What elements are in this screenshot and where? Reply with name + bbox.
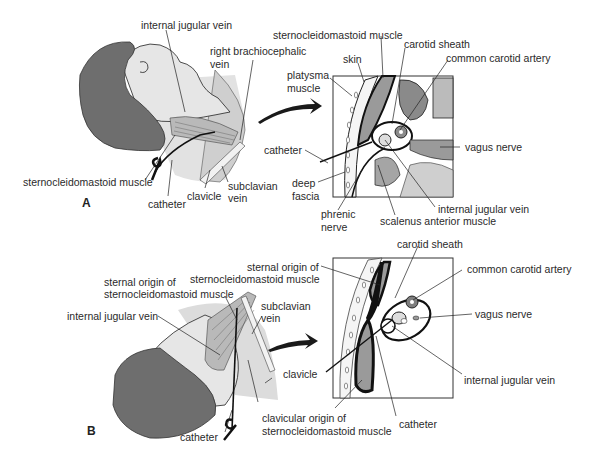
label-a-cs-platysma: platysma [287, 69, 329, 81]
label-a-cs-phrenic-nerve: phrenic [321, 208, 355, 220]
label-b-clavicular-origin: clavicular origin of [262, 412, 346, 424]
panel-letter-a: A [82, 196, 91, 210]
label-a-sternocleidomastoid-muscle: sternocleidomastoid muscle [23, 176, 153, 188]
label-b-cs-catheter: catheter [399, 418, 437, 430]
arrow-a-icon [258, 98, 322, 124]
label-b-cs-vagus-nerve: vagus nerve [475, 308, 532, 320]
label-a-cs-phrenic-nerve-line2: nerve [321, 221, 347, 233]
label-a-cs-vagus-nerve: vagus nerve [465, 141, 522, 153]
label-a-internal-jugular-vein: internal jugular vein [141, 19, 232, 31]
label-a-cs-skin: skin [343, 53, 362, 65]
label-b-cs-internal-jugular-vein: internal jugular vein [464, 374, 555, 386]
label-b-sternal-origin: sternal origin of [104, 276, 176, 288]
label-a-cs-scalenus-anterior: scalenus anterior muscle [380, 215, 496, 227]
label-a-subclavian-vein: subclavian [228, 180, 278, 192]
label-a-catheter: catheter [148, 198, 186, 210]
label-b-clavicular-origin-line2: sternocleidomastoid muscle [262, 425, 392, 437]
label-b-cs-sternal-origin-line2: sternocleidomastoid muscle [190, 273, 320, 285]
label-b-internal-jugular-vein: internal jugular vein [67, 310, 158, 322]
label-b-cs-carotid-sheath: carotid sheath [397, 238, 463, 250]
arrow-b-icon [268, 333, 318, 352]
label-a-cs-common-carotid-artery: common carotid artery [446, 52, 550, 64]
label-a-right-brachiocephalic-vein: right brachiocephalic [210, 45, 306, 57]
label-b-subclavian-vein: subclavian [261, 300, 311, 312]
label-b-catheter: catheter [180, 431, 218, 443]
label-a-cs-catheter: catheter [264, 144, 302, 156]
label-a-cs-deep-fascia-line2: fascia [292, 190, 319, 202]
panel-a-cross-section [320, 76, 453, 197]
label-b-cs-sternal-origin: sternal origin of [247, 261, 319, 273]
label-a-right-brachiocephalic-vein-line2: vein [210, 58, 229, 70]
label-a-cs-sternocleidomastoid: sternocleidomastoid muscle [273, 29, 403, 41]
label-a-subclavian-vein-line2: vein [228, 192, 247, 204]
label-b-subclavian-vein-line2: vein [261, 312, 280, 324]
panel-letter-b: B [87, 424, 96, 438]
label-a-cs-internal-jugular-vein: internal jugular vein [438, 203, 529, 215]
label-b-clavicle: clavicle [283, 368, 317, 380]
label-a-clavicle: clavicle [187, 190, 221, 202]
label-a-cs-platysma-line2: muscle [287, 82, 320, 94]
label-b-sternal-origin-line2: sternocleidomastoid muscle [104, 288, 234, 300]
label-a-cs-deep-fascia: deep [292, 177, 315, 189]
label-b-cs-common-carotid-artery: common carotid artery [467, 263, 571, 275]
label-a-cs-carotid-sheath: carotid sheath [404, 38, 470, 50]
panel-b-cross-section [326, 258, 453, 398]
